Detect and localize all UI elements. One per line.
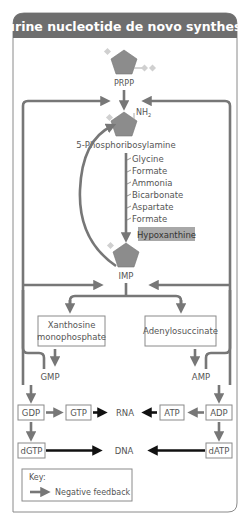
prpp-label: PRPP xyxy=(114,79,134,88)
input-item: Bicarbonate xyxy=(132,190,183,200)
gdp-label: GDP xyxy=(22,408,40,418)
legend: Key: Negative feedback xyxy=(22,469,132,501)
dna-label: DNA xyxy=(115,446,134,456)
input-item: Formate xyxy=(132,214,167,224)
legend-title: Key: xyxy=(29,473,46,482)
xmp-label-line2: monophosphate xyxy=(37,332,106,342)
input-item: Glycine xyxy=(132,154,164,164)
input-item: Formate xyxy=(132,166,167,176)
input-item: Ammonia xyxy=(132,178,173,188)
datp-label: dATP xyxy=(209,446,230,456)
diagram-title: Purine nucleotide de novo synthesis xyxy=(0,19,248,34)
adp-label: ADP xyxy=(210,408,228,418)
input-item: Aspartate xyxy=(132,202,173,212)
hypoxanthine-label: Hypoxanthine xyxy=(137,230,196,240)
imp-label: IMP xyxy=(119,271,134,281)
adenylosuccinate-label: Adenylosuccinate xyxy=(143,326,218,336)
rna-label: RNA xyxy=(116,408,134,418)
gtp-label: GTP xyxy=(70,408,87,418)
dgtp-label: dGTP xyxy=(21,446,43,456)
amp-label: AMP xyxy=(192,372,210,382)
legend-negative-feedback: Negative feedback xyxy=(55,488,131,497)
gmp-label: GMP xyxy=(40,372,59,382)
xmp-label-line1: Xanthosine xyxy=(48,320,96,330)
purine-synthesis-diagram: Purine nucleotide de novo synthesis PRPP… xyxy=(0,0,248,522)
atp-label: ATP xyxy=(164,408,179,418)
